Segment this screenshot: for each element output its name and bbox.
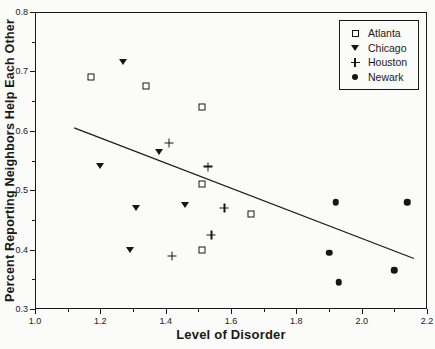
newark-data-point [404, 199, 411, 206]
newark-data-point [326, 249, 333, 256]
y-major-tick [30, 309, 35, 310]
filled-triangle-down-icon [351, 45, 359, 51]
x-major-tick [35, 309, 36, 314]
x-tick-label: 1.0 [29, 316, 42, 326]
square-legend-marker-icon [350, 30, 360, 37]
chicago-data-point [132, 205, 140, 211]
legend-label: Newark [368, 71, 404, 83]
plus-legend-marker-icon [350, 58, 360, 67]
atlanta-data-point [143, 83, 150, 90]
newark-data-point [332, 199, 339, 206]
x-tick-label: 1.8 [290, 316, 303, 326]
x-minor-tick [133, 309, 134, 312]
x-tick-label: 2.2 [421, 316, 434, 326]
chicago-data-point [155, 149, 163, 155]
plus-icon [351, 58, 360, 67]
y-minor-tick [32, 220, 35, 221]
circle-legend-marker-icon [350, 74, 360, 81]
x-tick-label: 2.0 [355, 316, 368, 326]
chicago-data-point [119, 59, 127, 65]
y-tick-label: 0.6 [2, 126, 28, 136]
x-minor-tick [68, 309, 69, 312]
y-tick-label: 0.4 [2, 245, 28, 255]
legend-item: Newark [350, 71, 418, 83]
legend-item: Chicago [350, 42, 418, 54]
y-tick-label: 0.3 [2, 304, 28, 314]
chicago-data-point [96, 163, 104, 169]
x-tick-label: 1.2 [94, 316, 107, 326]
houston-data-point [220, 204, 229, 213]
x-major-tick [100, 309, 101, 314]
newark-data-point [336, 279, 343, 286]
x-major-tick [296, 309, 297, 314]
y-tick-label: 0.7 [2, 66, 28, 76]
chicago-data-point [126, 247, 134, 253]
scatter-plot-figure: Percent Reporting Neighbors Help Each Ot… [0, 0, 435, 349]
y-minor-tick [32, 42, 35, 43]
x-minor-tick [329, 309, 330, 312]
y-major-tick [30, 250, 35, 251]
x-major-tick [166, 309, 167, 314]
legend-item: Atlanta [350, 27, 418, 39]
y-tick-label: 0.8 [2, 7, 28, 17]
houston-data-point [164, 138, 173, 147]
x-major-tick [362, 309, 363, 314]
x-major-tick [427, 309, 428, 314]
y-major-tick [30, 190, 35, 191]
legend-item: Houston [350, 56, 418, 68]
y-major-tick [30, 12, 35, 13]
atlanta-data-point [247, 210, 254, 217]
y-minor-tick [32, 101, 35, 102]
y-axis-title: Percent Reporting Neighbors Help Each Ot… [1, 12, 18, 309]
legend-box: AtlantaChicagoHoustonNewark [339, 20, 419, 90]
houston-data-point [204, 162, 213, 171]
filled-circle-icon [352, 74, 359, 81]
y-major-tick [30, 131, 35, 132]
houston-data-point [168, 251, 177, 260]
legend-label: Houston [368, 56, 407, 68]
x-tick-label: 1.4 [159, 316, 172, 326]
atlanta-data-point [198, 104, 205, 111]
y-major-tick [30, 71, 35, 72]
tri-legend-marker-icon [350, 45, 360, 51]
open-square-icon [352, 30, 359, 37]
legend-label: Chicago [368, 42, 407, 54]
x-axis-title: Level of Disorder [35, 327, 427, 342]
atlanta-data-point [198, 181, 205, 188]
y-minor-tick [32, 279, 35, 280]
atlanta-data-point [87, 74, 94, 81]
y-tick-label: 0.5 [2, 185, 28, 195]
chicago-data-point [181, 202, 189, 208]
x-major-tick [231, 309, 232, 314]
newark-data-point [391, 267, 398, 274]
y-minor-tick [32, 161, 35, 162]
houston-data-point [207, 231, 216, 240]
x-minor-tick [394, 309, 395, 312]
x-minor-tick [264, 309, 265, 312]
x-minor-tick [198, 309, 199, 312]
atlanta-data-point [198, 246, 205, 253]
x-tick-label: 1.6 [225, 316, 238, 326]
legend-label: Atlanta [368, 27, 401, 39]
